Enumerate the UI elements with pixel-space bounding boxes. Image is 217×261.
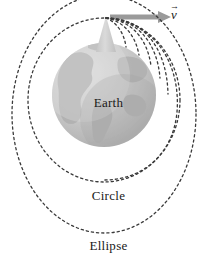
ellipse-orbit-label: Ellipse (0, 238, 217, 254)
velocity-symbol: v (170, 9, 178, 20)
velocity-vector-label: → v (170, 4, 178, 20)
earth-label: Earth (0, 95, 217, 111)
orbit-paths-layer (0, 0, 217, 261)
circle-orbit-label: Circle (0, 188, 217, 204)
projectile-arc-3 (106, 18, 151, 66)
projectile-arc-2 (106, 18, 139, 55)
newtons-cannonball-figure: Earth Circle Ellipse → v (0, 0, 217, 261)
projectile-arc-4 (106, 18, 160, 78)
